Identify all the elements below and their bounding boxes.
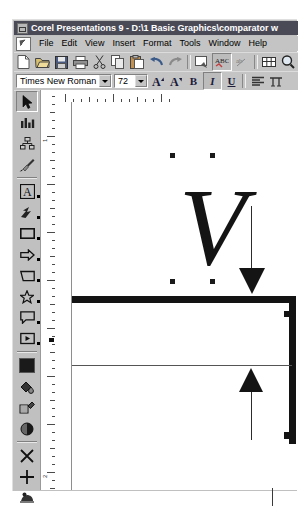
tool-separator (17, 351, 37, 353)
text-object-v[interactable]: V (179, 172, 246, 282)
menu-item-file[interactable]: File (35, 36, 58, 51)
horizontal-rule-thick[interactable] (72, 296, 296, 303)
text-tool[interactable]: A (16, 181, 38, 202)
crosshair-tool[interactable] (16, 466, 38, 487)
edge-notch-upper (284, 311, 289, 317)
selection-handle[interactable] (210, 279, 215, 284)
font-size-combobox[interactable]: 72 (114, 74, 148, 88)
font-name-combobox[interactable]: Times New Roman (16, 74, 112, 88)
standard-toolbar: ABC ab (14, 52, 297, 71)
tool-palette: A (14, 90, 40, 491)
cut-scissors-icon[interactable] (90, 54, 108, 70)
copy-icon[interactable] (109, 54, 127, 70)
shadow-fill-tool[interactable] (16, 418, 38, 439)
svg-text:A: A (152, 75, 161, 88)
polygon-tool[interactable] (16, 265, 38, 286)
new-icon[interactable] (14, 54, 32, 70)
text-caret-mark (272, 488, 273, 506)
brush-tool[interactable] (16, 154, 38, 175)
chevron-down-icon[interactable] (135, 75, 147, 87)
action-tool[interactable] (16, 328, 38, 349)
selection-handle[interactable] (210, 153, 215, 158)
menu-item-edit[interactable]: Edit (58, 36, 82, 51)
svg-text:ABC: ABC (215, 57, 229, 65)
menu-bar: File Edit View Insert Format Tools Windo… (14, 36, 297, 51)
quickcorrect-icon[interactable]: ab (233, 54, 251, 70)
vertical-ruler[interactable]: 1 (40, 90, 56, 490)
rectangle-tool[interactable] (16, 223, 38, 244)
svg-text:A: A (23, 185, 32, 199)
pattern-fill-tool[interactable] (16, 397, 38, 418)
star-tool[interactable] (16, 286, 38, 307)
application-window: Corel Presentations 9 - D:\1 Basic Graph… (0, 0, 297, 526)
tool-separator (17, 177, 37, 179)
bold-icon[interactable]: B (185, 73, 202, 89)
undo-arrow-icon[interactable] (147, 54, 165, 70)
open-folder-icon[interactable] (33, 54, 51, 70)
font-size-increase-icon[interactable]: A (149, 73, 166, 89)
edge-notch-lower (284, 432, 289, 439)
pointer-tool[interactable] (16, 91, 38, 112)
no-fill-tool[interactable] (16, 445, 38, 466)
underline-icon[interactable]: U (223, 73, 240, 89)
title-bar[interactable]: Corel Presentations 9 - D:\1 Basic Graph… (14, 21, 297, 35)
menu-item-insert[interactable]: Insert (108, 36, 139, 51)
font-name-value: Times New Roman (17, 75, 99, 87)
menu-item-window[interactable]: Window (204, 36, 244, 51)
text-options-icon[interactable] (267, 73, 284, 89)
spellcheck-icon[interactable]: ABC (212, 53, 232, 71)
toolbar-separator (187, 55, 191, 69)
vertical-rule-thick[interactable] (289, 296, 296, 444)
document-edit-icon[interactable] (16, 37, 31, 51)
svg-text:A: A (170, 75, 179, 88)
ruler-marker[interactable] (49, 338, 54, 342)
property-bar-separator (242, 74, 246, 88)
chart-tool[interactable] (16, 112, 38, 133)
horizontal-rule-thin[interactable] (72, 365, 292, 366)
selection-handle[interactable] (170, 279, 175, 284)
fill-color-tool[interactable] (16, 355, 38, 376)
slide-surface[interactable]: V (55, 102, 297, 490)
print-icon[interactable] (71, 54, 89, 70)
zoom-magnifier-icon[interactable] (279, 54, 297, 70)
menu-item-tools[interactable]: Tools (175, 36, 204, 51)
up-arrow-head[interactable] (239, 368, 263, 392)
align-icon[interactable] (249, 73, 266, 89)
down-arrow-head[interactable] (239, 268, 265, 294)
menu-item-help[interactable]: Help (244, 36, 271, 51)
table-grid-icon[interactable] (260, 54, 278, 70)
arrow-shape-tool[interactable] (16, 244, 38, 265)
save-disk-icon[interactable] (52, 54, 70, 70)
selection-handle[interactable] (170, 153, 175, 158)
redo-arrow-icon[interactable] (166, 54, 184, 70)
quickview-icon[interactable] (193, 54, 211, 70)
menu-item-view[interactable]: View (81, 36, 108, 51)
window-title: Corel Presentations 9 - D:\1 Basic Graph… (31, 21, 278, 35)
italic-icon[interactable]: I (203, 72, 222, 90)
paste-clipboard-icon[interactable] (128, 54, 146, 70)
property-bar: Times New Roman 72 A A B I U (14, 71, 297, 90)
slide-canvas[interactable]: V (55, 90, 297, 490)
clipart-tool[interactable] (16, 487, 38, 508)
menu-item-format[interactable]: Format (139, 36, 176, 51)
toolbar-separator (254, 55, 258, 69)
freehand-line-tool[interactable] (16, 202, 38, 223)
corel-presentations-window: Corel Presentations 9 - D:\1 Basic Graph… (12, 19, 297, 491)
callout-tool[interactable] (16, 307, 38, 328)
object-fill-tool[interactable] (16, 376, 38, 397)
org-chart-tool[interactable] (16, 133, 38, 154)
up-arrow-shaft[interactable] (251, 392, 252, 440)
chevron-down-icon[interactable] (99, 75, 111, 87)
font-size-decrease-icon[interactable]: A (167, 73, 184, 89)
color-swatch-black[interactable] (19, 358, 35, 373)
tool-separator (17, 441, 37, 443)
font-size-value: 72 (115, 75, 135, 87)
system-menu-icon[interactable] (17, 23, 28, 34)
